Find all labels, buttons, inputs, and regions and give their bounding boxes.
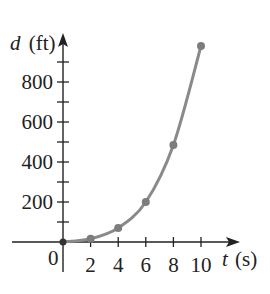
x-tick-label: 10 [191,253,212,277]
y-axis-label: d (ft) [10,31,56,55]
x-tick-label: 2 [85,253,96,277]
data-point [114,224,122,232]
data-point [60,239,67,246]
chart-canvas: 246810 200400600800 0 t (s) d (ft) [0,0,270,294]
y-tick-label: 400 [22,150,54,174]
y-tick-label: 600 [22,110,54,134]
data-curve [63,46,201,242]
data-markers [60,42,206,246]
data-point [87,235,95,243]
data-point [197,42,205,50]
y-tick-label: 200 [22,190,54,214]
data-point [142,198,150,206]
x-tick-label: 6 [141,253,152,277]
origin-label: 0 [48,246,59,270]
x-axis-label: t (s) [222,247,257,271]
y-tick-labels: 200400600800 [22,70,54,214]
y-tick-label: 800 [22,70,54,94]
y-axis-variable: d [10,31,21,55]
x-tick-label: 4 [113,253,124,277]
y-axis-unit: (ft) [29,31,56,55]
x-axis-variable: t [222,247,229,271]
data-point [169,141,177,149]
x-tick-labels: 246810 [85,253,211,277]
x-axis-unit: (s) [235,247,257,271]
x-tick-label: 8 [168,253,179,277]
